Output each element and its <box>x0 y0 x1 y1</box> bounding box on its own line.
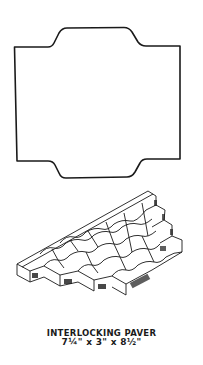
caption-dimensions: 7¼" x 3" x 8½" <box>0 338 203 347</box>
paver-isometric-group <box>17 191 182 295</box>
paver-plan-outline <box>15 28 181 179</box>
paver-figure <box>0 0 203 365</box>
